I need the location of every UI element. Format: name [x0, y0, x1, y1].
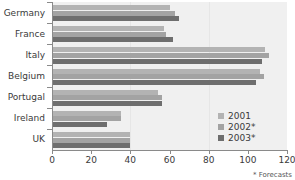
category-label: France — [15, 29, 45, 39]
category-label: Ireland — [14, 113, 45, 123]
legend-item: 2002* — [218, 121, 278, 132]
bar — [52, 47, 265, 52]
x-tick-mark — [170, 150, 171, 154]
bar — [52, 143, 130, 148]
bar — [52, 138, 130, 143]
category-tick — [47, 2, 52, 3]
legend-swatch-2003 — [218, 135, 224, 141]
x-tick-mark — [130, 150, 131, 154]
category-label: Germany — [4, 8, 45, 18]
x-tick-mark — [209, 150, 210, 154]
category-label: Portugal — [8, 92, 45, 102]
bar — [52, 101, 162, 106]
category-label: UK — [33, 134, 46, 144]
legend-swatch-2002 — [218, 124, 224, 130]
bar — [52, 32, 166, 37]
bar — [52, 122, 107, 127]
bar-chart: GermanyFranceItalyBelgiumPortugalIreland… — [0, 0, 295, 180]
bar — [52, 26, 164, 31]
bar — [52, 132, 130, 137]
legend-item: 2003* — [218, 132, 278, 143]
bar — [52, 95, 162, 100]
bar — [52, 74, 264, 79]
category-tick — [47, 44, 52, 45]
legend-swatch-2001 — [218, 113, 224, 119]
bar — [52, 90, 158, 95]
chart-footnote: * Forecasts — [253, 171, 292, 179]
bar — [52, 16, 179, 21]
x-tick-mark — [248, 150, 249, 154]
bar — [52, 69, 260, 74]
legend-label: 2002* — [228, 122, 255, 132]
category-axis: GermanyFranceItalyBelgiumPortugalIreland… — [0, 2, 49, 150]
x-tick-label: 60 — [164, 155, 175, 165]
x-tick-label: 100 — [239, 155, 256, 165]
x-tick-label: 120 — [278, 155, 295, 165]
bar — [52, 5, 170, 10]
x-tick-label: 40 — [125, 155, 136, 165]
legend-item: 2001 — [218, 110, 278, 121]
bar — [52, 111, 121, 116]
bar — [52, 53, 269, 58]
bar — [52, 11, 175, 16]
x-tick-mark — [52, 150, 53, 154]
category-tick — [47, 23, 52, 24]
x-tick-mark — [91, 150, 92, 154]
x-tick-mark — [287, 150, 288, 154]
category-tick — [47, 108, 52, 109]
category-tick — [47, 65, 52, 66]
bar — [52, 59, 262, 64]
bar — [52, 37, 173, 42]
x-tick-label: 0 — [49, 155, 55, 165]
legend-label: 2001 — [228, 111, 251, 121]
category-label: Belgium — [8, 71, 45, 81]
x-tick-label: 20 — [85, 155, 96, 165]
x-axis: 020406080100120 — [0, 150, 295, 178]
chart-legend: 2001 2002* 2003* — [218, 110, 278, 143]
bar — [52, 116, 121, 121]
category-tick — [47, 87, 52, 88]
category-label: Italy — [25, 50, 45, 60]
y-axis-line — [52, 2, 53, 151]
x-tick-label: 80 — [203, 155, 214, 165]
legend-label: 2003* — [228, 133, 255, 143]
bar — [52, 80, 256, 85]
category-tick — [47, 129, 52, 130]
